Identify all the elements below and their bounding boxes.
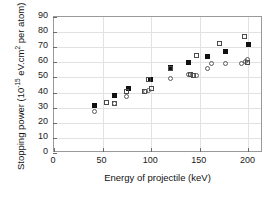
gridline-horizontal (54, 108, 261, 109)
data-point-filled-square (205, 54, 210, 59)
y-axis-tick-label: 20 (22, 117, 48, 126)
y-axis-label-prefix: Stopping power (10 (15, 88, 26, 170)
gridline-vertical (103, 17, 104, 151)
y-axis-tick (53, 123, 57, 124)
data-point-open-square (242, 34, 247, 39)
gridline-vertical (151, 17, 152, 151)
data-point-open-circle (92, 109, 97, 114)
x-axis-tick-label: 200 (232, 155, 262, 165)
gridline-horizontal (54, 138, 261, 139)
x-axis-tick-label: 0 (38, 155, 68, 165)
data-point-filled-square (92, 103, 97, 108)
y-axis-tick (53, 138, 57, 139)
gridline-horizontal (54, 32, 261, 33)
gridline-horizontal (54, 123, 261, 124)
gridline-horizontal (54, 47, 261, 48)
y-axis-tick (53, 93, 57, 94)
y-axis-tick-label: 50 (22, 71, 48, 80)
stopping-power-scatter-chart: Energy of projectile (keV) Stopping powe… (0, 0, 276, 198)
y-axis-tick (53, 62, 57, 63)
data-point-open-circle (243, 59, 248, 64)
x-axis-tick (200, 148, 201, 152)
gridline-horizontal (54, 93, 261, 94)
plot-area (53, 16, 262, 152)
data-point-filled-square (186, 60, 191, 65)
data-point-open-square (217, 41, 222, 46)
y-axis-tick-label: 60 (22, 56, 48, 65)
x-axis-tick (248, 148, 249, 152)
x-axis-tick-label: 100 (135, 155, 165, 165)
y-axis-label-suffix2: per atom) (15, 3, 26, 46)
x-axis-tick-label: 150 (184, 155, 214, 165)
x-axis-tick-label: 50 (87, 155, 117, 165)
y-axis-label-exponent2: 2 (14, 46, 21, 50)
y-axis-tick-label: 80 (22, 26, 48, 35)
data-point-open-square (194, 53, 199, 58)
y-axis-label-exponent: -15 (14, 78, 21, 87)
data-point-open-circle (168, 76, 173, 81)
y-axis-tick (53, 108, 57, 109)
data-point-open-square (124, 89, 129, 94)
data-point-filled-square (246, 42, 251, 47)
data-point-open-circle (124, 94, 129, 99)
data-point-open-circle (146, 88, 151, 93)
gridline-horizontal (54, 77, 261, 78)
y-axis-tick (53, 17, 57, 18)
x-axis-tick (151, 148, 152, 152)
y-axis-tick-label: 90 (22, 11, 48, 20)
data-point-filled-square (112, 93, 117, 98)
data-point-open-circle (223, 61, 228, 66)
y-axis-tick-label: 40 (22, 87, 48, 96)
data-point-open-square (146, 77, 151, 82)
data-point-open-square (168, 66, 173, 71)
x-axis-tick (54, 148, 55, 152)
data-point-open-circle (209, 61, 214, 66)
data-point-filled-square (223, 49, 228, 54)
y-axis-tick (53, 47, 57, 48)
gridline-horizontal (54, 62, 261, 63)
data-point-open-square (104, 100, 109, 105)
y-axis-tick-label: 10 (22, 132, 48, 141)
data-point-open-circle (186, 72, 191, 77)
x-axis-tick (103, 148, 104, 152)
gridline-vertical (248, 17, 249, 151)
data-point-open-circle (205, 66, 210, 71)
y-axis-tick-label: 30 (22, 102, 48, 111)
x-axis-label: Energy of projectile (keV) (53, 172, 262, 183)
y-axis-tick (53, 32, 57, 33)
gridline-vertical (200, 17, 201, 151)
y-axis-tick-label: 70 (22, 41, 48, 50)
y-axis-tick (53, 153, 57, 154)
y-axis-tick (53, 77, 57, 78)
data-point-open-circle (112, 101, 117, 106)
